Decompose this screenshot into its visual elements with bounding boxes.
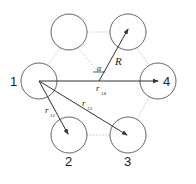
label-1: 1: [10, 74, 17, 89]
label-r13: r: [82, 98, 86, 108]
label-r12-sub: 12: [50, 113, 56, 118]
circle-3: [110, 117, 146, 153]
vector-r13: [39, 81, 127, 135]
label-2: 2: [65, 154, 72, 169]
hexagon-diagram: 1 4 2 3 R α r 14 r 12 r 13: [0, 0, 196, 184]
label-r12: r: [45, 105, 49, 115]
circle-top-left: [51, 14, 87, 50]
label-3: 3: [124, 154, 131, 169]
circle-top-right: [110, 14, 146, 50]
label-r14-sub: 14: [101, 91, 107, 96]
vector-R: [99, 29, 128, 81]
label-r13-sub: 13: [87, 106, 93, 111]
label-R: R: [114, 55, 122, 67]
label-4: 4: [163, 74, 170, 89]
circle-2: [51, 117, 87, 153]
label-r14: r: [96, 83, 100, 93]
